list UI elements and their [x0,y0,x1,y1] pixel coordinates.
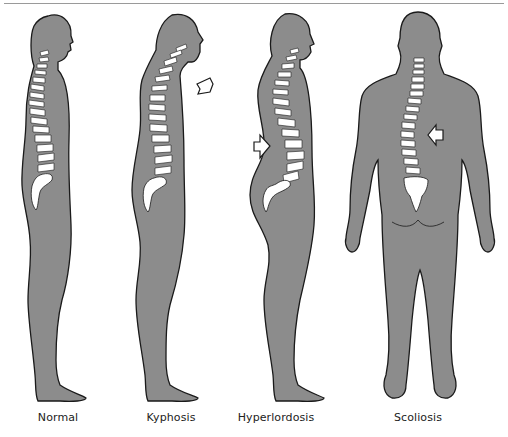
figure-scoliosis [345,12,494,398]
label-kyphosis: Kyphosis [147,411,196,424]
label-hyperlordosis: Hyperlordosis [238,411,315,424]
spine-illustration: .b { fill:#8c8c8c; stroke:#1a1a1a; strok… [0,0,508,437]
label-scoliosis: Scoliosis [394,411,442,424]
figure-normal [22,15,86,401]
body-silhouette-normal [22,15,86,401]
label-normal: Normal [38,411,78,424]
arrow-kyphosis [197,78,213,94]
figure-kyphosis [132,14,213,401]
figure-hyperlordosis [250,14,324,402]
